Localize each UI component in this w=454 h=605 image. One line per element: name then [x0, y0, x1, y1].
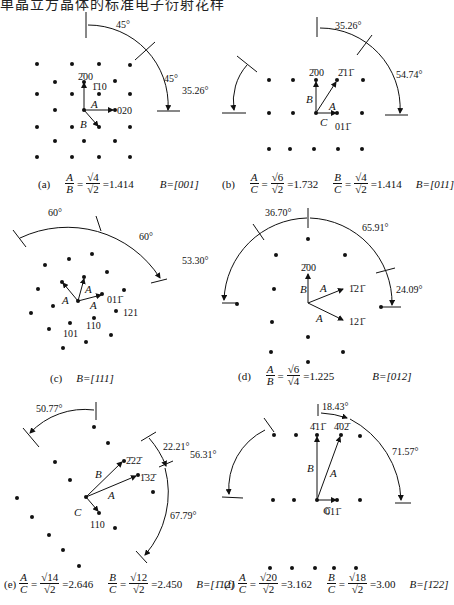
ratio-den: √4 — [288, 376, 300, 387]
spot-label: 121 — [123, 307, 138, 318]
angle-label: 45° — [164, 73, 178, 84]
zone-axis: B=[001] — [160, 178, 199, 190]
panel-f: 4̄11̄ 4̄02̄ 011̄ A B C 18.43° 56.31° 71.… — [190, 401, 419, 570]
vector-label: A — [315, 312, 323, 324]
spot-label: 020 — [117, 105, 132, 116]
angle-label: 35.26° — [335, 20, 362, 31]
caption-d: (d) AB = √6√4 =1.225 B=[012] — [238, 364, 412, 387]
spot-label: 2̄00 — [78, 71, 93, 82]
panel-label: (d) — [238, 370, 251, 382]
vector-label: B — [300, 283, 307, 295]
spot-label: 2̄11̄ — [338, 67, 355, 78]
panel-label: (f) — [224, 578, 235, 590]
ratio-den: C — [109, 584, 116, 595]
vector-label: A — [61, 294, 69, 306]
panel-label: (b) — [222, 178, 235, 190]
zone-axis: B=[011] — [416, 178, 454, 190]
zone-axis: B=[012] — [372, 370, 411, 382]
vector-label: B — [307, 462, 314, 474]
ratio-value: =1.414 — [371, 178, 402, 190]
ratio-den: C — [334, 184, 341, 195]
ratio-den: √2 — [133, 584, 145, 595]
spot-label: 2̄22̄ — [126, 455, 143, 466]
zone-axis: B=[111] — [76, 372, 114, 384]
angle-label: 67.79° — [170, 510, 197, 521]
spot-label: 1̄21̄ — [349, 283, 366, 294]
ratio-den: C — [328, 584, 335, 595]
vector-label: A — [90, 98, 98, 110]
ratio-den: B — [267, 376, 274, 387]
vector-label: A — [319, 282, 327, 294]
ratio-den: √2 — [44, 584, 56, 595]
ratio-value: =1.414 — [103, 178, 134, 190]
vector-label: A — [84, 283, 92, 295]
caption-a: (a) AB = √4√2 =1.414 B=[001] — [38, 172, 199, 195]
spot-label: 011̄ — [107, 294, 124, 305]
spot-label: 4̄02̄ — [334, 421, 351, 432]
vector-label: A — [89, 299, 97, 311]
angle-label: 35.26° — [182, 85, 209, 96]
panel-label: (e) — [4, 578, 16, 590]
panel-b: 2̄00 2̄11̄ 011̄ A B C 35.26° 35.26° 54.7… — [182, 17, 423, 151]
ratio-den: √2 — [352, 584, 364, 595]
ratio-den: C — [239, 584, 246, 595]
panel-d: 2̄00 1̄21̄ 121̄ A A B 36.70° 65.91° 53.3… — [182, 207, 423, 364]
spot-label: 011̄ — [335, 121, 352, 132]
ratio-den: √2 — [272, 184, 284, 195]
ratio-value: =2.450 — [151, 578, 182, 590]
angle-label: 22.21° — [163, 441, 190, 452]
angle-label: 56.31° — [190, 449, 217, 460]
ratio-value: =1.732 — [287, 178, 318, 190]
spot-label: 121̄ — [349, 316, 366, 327]
spot-label: 2̄00 — [309, 67, 324, 78]
vector-label: A — [107, 489, 115, 501]
ratio-value: =1.225 — [303, 370, 334, 382]
vector-label: B — [306, 93, 313, 105]
panel-a: 2̄00 1̄10 020 A B 45° 45° — [35, 12, 180, 159]
angle-label: 60° — [48, 207, 62, 218]
caption-e: (e) AC = √14√2 =2.646 BC = √12√2 =2.450 … — [4, 572, 235, 595]
angle-label: 65.91° — [362, 222, 389, 233]
spot-label: 1̄32̄ — [140, 472, 157, 483]
angle-label: 71.57° — [392, 446, 419, 457]
ratio-den: C — [20, 584, 27, 595]
zone-axis: B=[1̄22] — [409, 578, 448, 590]
spot-label: 110 — [86, 320, 101, 331]
ratio-den: C — [251, 184, 258, 195]
angle-label: 24.09° — [396, 284, 423, 295]
ratio-value: =3.162 — [281, 578, 312, 590]
vector-label: C — [323, 504, 331, 516]
angle-label: 54.74° — [396, 69, 423, 80]
ratio-den: B — [66, 184, 73, 195]
angle-label: 18.43° — [322, 401, 349, 412]
angle-label: 50.77° — [36, 403, 63, 414]
angle-label: 53.30° — [182, 255, 209, 266]
caption-c: (c) B=[111] — [50, 372, 114, 384]
vector-label: B — [80, 118, 87, 130]
vector-label: A — [328, 100, 336, 112]
caption-b: (b) AC = √6√2 =1.732 BC = √4√2 =1.414 B=… — [222, 172, 454, 195]
ratio-den: √2 — [87, 184, 99, 195]
ratio-den: √2 — [355, 184, 367, 195]
spot-label: 1̄10 — [92, 81, 107, 92]
ratio-value: =3.00 — [370, 578, 395, 590]
angle-label: 36.70° — [265, 207, 292, 218]
angle-label: 60° — [139, 231, 153, 242]
caption-f: (f) AC = √20√2 =3.162 BC = √18√2 =3.00 B… — [224, 572, 449, 595]
panel-c: 011̄ 121 110 101 A A A 60° 60° — [13, 207, 167, 350]
spot-label: 110 — [90, 519, 105, 530]
spot-label: 4̄11̄ — [310, 421, 327, 432]
vector-label: C — [320, 116, 328, 128]
spot-label: 2̄00 — [301, 262, 316, 273]
vector-label: B — [95, 468, 102, 480]
spot-label: 101 — [63, 328, 78, 339]
vector-label: C — [74, 506, 82, 518]
panel-label: (a) — [38, 178, 50, 190]
panel-e: 2̄22̄ 1̄32̄ 110 A B C 50.77° 22.21° 67.7… — [15, 402, 197, 568]
ratio-value: =2.646 — [62, 578, 93, 590]
ratio-den: √2 — [263, 584, 275, 595]
panel-label: (c) — [50, 372, 62, 384]
vector-label: A — [329, 467, 337, 479]
angle-label: 45° — [116, 19, 130, 30]
